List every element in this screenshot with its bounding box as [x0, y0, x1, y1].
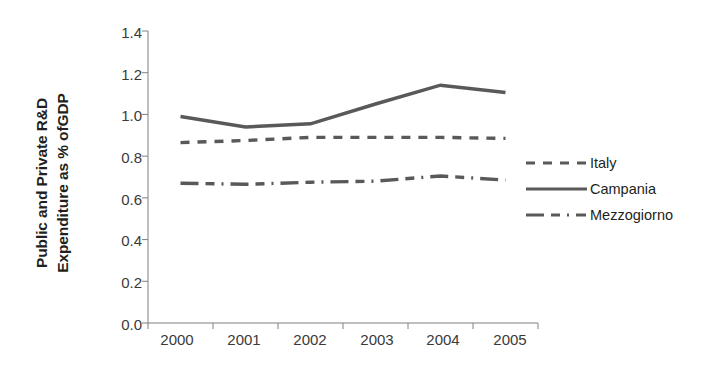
legend-item-mezzogiorno[interactable]: Mezzogiorno — [524, 202, 714, 228]
data-series-layer — [181, 85, 506, 184]
legend-swatch-italy — [524, 156, 588, 170]
series-line-italy — [181, 137, 506, 142]
legend-swatch-mezzogiorno — [524, 208, 588, 222]
legend-label-mezzogiorno: Mezzogiorno — [590, 207, 673, 223]
axes — [142, 31, 538, 329]
legend-label-campania: Campania — [590, 181, 656, 197]
legend-item-campania[interactable]: Campania — [524, 176, 714, 202]
series-line-mezzogiorno — [181, 176, 506, 184]
x-axis-ticks — [148, 323, 538, 329]
legend-swatch-campania — [524, 182, 588, 196]
legend-label-italy: Italy — [590, 155, 617, 171]
y-axis-ticks — [142, 31, 148, 323]
legend: Italy Campania Mezzogiorno — [524, 150, 714, 228]
chart-container: Public and Private R&D Expenditure as % … — [0, 0, 722, 381]
legend-item-italy[interactable]: Italy — [524, 150, 714, 176]
series-line-campania — [181, 85, 506, 127]
